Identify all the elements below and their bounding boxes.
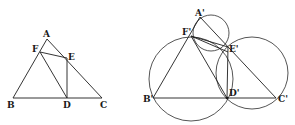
left-figure: A F E B D C xyxy=(7,29,107,110)
label-A': A' xyxy=(194,8,205,18)
label-E: E xyxy=(68,52,75,62)
segment-E'D' xyxy=(227,47,228,98)
segment-AB xyxy=(13,39,47,98)
label-C': C' xyxy=(278,94,288,104)
label-D: D xyxy=(63,100,71,110)
label-B: B xyxy=(7,100,15,110)
label-E': E' xyxy=(229,44,239,54)
label-D': D' xyxy=(229,88,240,98)
label-F: F xyxy=(32,44,39,54)
label-A: A xyxy=(42,29,51,39)
segment-FD xyxy=(40,52,67,98)
point-D' xyxy=(226,97,229,100)
segment-A'B' xyxy=(153,17,200,98)
geometry-diagram: A F E B D C A' F' E' B' D' C' xyxy=(0,0,295,125)
segment-FE xyxy=(40,52,67,58)
label-B': B' xyxy=(143,94,153,104)
circle-BFD xyxy=(149,37,233,121)
segment-AC xyxy=(47,39,102,98)
label-F': F' xyxy=(182,27,191,37)
segment-A'C' xyxy=(200,17,276,98)
label-C: C xyxy=(100,100,107,110)
right-figure: A' F' E' B' D' C' xyxy=(143,8,288,121)
